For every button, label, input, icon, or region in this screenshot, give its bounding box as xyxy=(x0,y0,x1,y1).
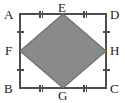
geometry-figure: A D B C E G F H xyxy=(0,0,125,103)
vertex-label-h: H xyxy=(110,44,119,57)
vertex-label-g: G xyxy=(58,89,67,102)
vertex-label-f: F xyxy=(5,44,12,57)
vertex-label-d: D xyxy=(110,8,119,21)
shaded-rhombus-ehgf xyxy=(20,14,106,88)
vertex-label-b: B xyxy=(4,82,13,95)
vertex-label-e: E xyxy=(58,1,66,14)
vertex-label-c: C xyxy=(110,82,119,95)
vertex-label-a: A xyxy=(4,8,13,21)
